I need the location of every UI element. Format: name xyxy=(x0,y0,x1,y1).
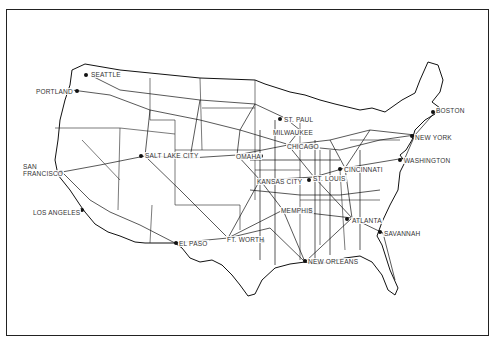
city-label-chicago: CHICAGO xyxy=(286,143,320,150)
city-label-new-york: NEW YORK xyxy=(414,134,453,141)
city-label-el-paso: EL PASO xyxy=(178,240,209,247)
city-label-st-paul: ST. PAUL xyxy=(283,116,314,123)
city-dot-st-paul xyxy=(278,117,282,121)
city-label-salt-lake-city: SALT LAKE CITY xyxy=(144,152,200,159)
city-label-kansas-city: KANSAS CITY xyxy=(256,178,303,185)
city-label-ft-worth: FT. WORTH xyxy=(226,236,265,243)
city-dot-seattle xyxy=(84,73,88,77)
city-label-seattle: SEATTLE xyxy=(90,71,122,78)
city-label-savannah: SAVANNAH xyxy=(383,230,421,237)
city-dot-portland xyxy=(75,89,79,93)
city-label-omaha: OMAHA xyxy=(235,153,262,160)
city-dot-st-louis xyxy=(307,178,311,182)
city-dot-atlanta xyxy=(345,217,349,221)
city-dot-washington xyxy=(398,158,402,162)
city-dot-cincinnati xyxy=(338,167,342,171)
city-label-atlanta: ATLANTA xyxy=(351,217,383,224)
city-label-boston: BOSTON xyxy=(435,107,466,114)
city-label-memphis: MEMPHIS xyxy=(280,207,314,214)
us-railroad-map xyxy=(0,0,495,346)
us-outline xyxy=(55,62,443,296)
city-label-san: SAN xyxy=(22,163,38,170)
city-label-milwaukee: MILWAUKEE xyxy=(272,129,314,136)
city-label-los-angeles: LOS ANGELES xyxy=(32,209,81,216)
city-label-new-orleans: NEW ORLEANS xyxy=(307,258,359,265)
city-dot-salt-lake-city xyxy=(139,154,143,158)
city-label-st-louis: ST. LOUIS xyxy=(312,175,347,182)
city-label-portland: PORTLAND xyxy=(35,88,74,95)
city-label-cincinnati: CINCINNATI xyxy=(343,166,384,173)
city-label-washington: WASHINGTON xyxy=(403,157,451,164)
city-dot-savannah xyxy=(378,230,382,234)
city-label-francisco: FRANCISCO xyxy=(22,170,64,177)
